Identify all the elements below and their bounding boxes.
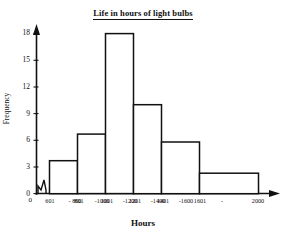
bar-1001-1200 [106, 34, 134, 194]
origin-label: 0 [22, 196, 32, 204]
y-tick-label-6: 6 [14, 136, 30, 144]
bar-801-1000 [78, 134, 106, 194]
y-tick-label-3: 3 [14, 163, 30, 171]
y-tick-label-18: 18 [14, 29, 30, 37]
y-tick-label-12: 12 [14, 83, 30, 91]
bar-1201-1400 [134, 105, 162, 194]
y-tick-label-9: 9 [14, 110, 30, 118]
bar-1601-2000 [200, 173, 259, 194]
x-label-bin1-start: 601 [38, 197, 62, 205]
x-axis-arrowhead [269, 190, 280, 197]
x-label-bin6-start: 1601 [187, 197, 213, 205]
bar-601-800 [50, 161, 78, 194]
axis-break-mark [38, 180, 46, 194]
x-label-bin6-end: 2000 [245, 197, 271, 205]
x-label-bin2-start: 801 [67, 197, 91, 205]
bar-1401-1600 [162, 142, 200, 194]
y-axis-title: Frequency [2, 79, 11, 139]
histogram-figure: Life in hours of light bulbs [0, 0, 286, 238]
x-axis-title: Hours [0, 218, 286, 228]
y-tick-label-15: 15 [14, 56, 30, 64]
x-label-bin6-mid: - [216, 197, 228, 205]
